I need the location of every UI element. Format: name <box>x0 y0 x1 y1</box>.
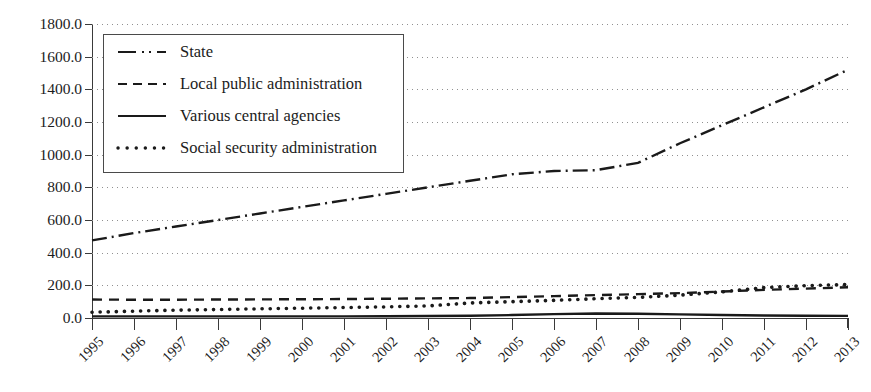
legend-box: State Local public administration Variou… <box>103 34 404 173</box>
legend-swatch-dotted <box>116 141 168 155</box>
legend-entry-state: State <box>116 39 213 65</box>
legend-label-various-central-agencies: Various central agencies <box>180 106 340 126</box>
legend-label-state: State <box>180 42 213 62</box>
chart-figure: 1800.01600.01400.01200.01000.0800.0600.0… <box>0 0 871 392</box>
series-line-local-public-administration <box>92 287 848 299</box>
legend-entry-social-security-administration: Social security administration <box>116 135 377 161</box>
series-line-various-central-agencies <box>92 313 848 316</box>
legend-swatch-dash-dot <box>116 45 168 59</box>
legend-entry-local-public-administration: Local public administration <box>116 71 362 97</box>
legend-entry-various-central-agencies: Various central agencies <box>116 103 340 129</box>
legend-label-social-security-administration: Social security administration <box>180 138 377 158</box>
legend-label-local-public-administration: Local public administration <box>180 74 362 94</box>
legend-swatch-dashed <box>116 77 168 91</box>
legend-swatch-solid <box>116 109 168 123</box>
